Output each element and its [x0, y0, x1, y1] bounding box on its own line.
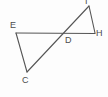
- segment-E-H: [16, 33, 95, 34]
- geometry-figure: E C D H I: [0, 0, 108, 97]
- vertex-label-h: H: [96, 29, 103, 38]
- vertex-label-c: C: [22, 76, 29, 85]
- geometry-drawing: [0, 0, 108, 97]
- vertex-label-e: E: [10, 21, 16, 30]
- segment-E-C: [16, 33, 27, 72]
- segment-C-I: [27, 6, 89, 72]
- segment-I-H: [89, 6, 95, 33]
- vertex-label-d: D: [65, 36, 72, 45]
- vertex-label-i: I: [85, 0, 88, 6]
